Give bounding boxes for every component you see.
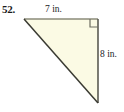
right-side-length-label: 8 in. <box>100 49 117 60</box>
geometry-figure: 52. 7 in. 8 in. <box>0 0 124 112</box>
top-side-length-label: 7 in. <box>45 4 62 15</box>
